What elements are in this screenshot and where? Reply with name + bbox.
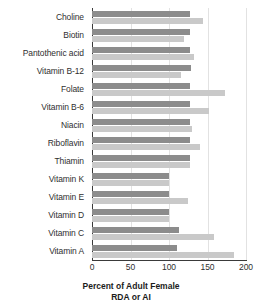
bar: [92, 173, 169, 179]
bar-group: [92, 242, 246, 260]
x-axis-title-line-2: RDA or AI: [0, 292, 262, 303]
bar-group: [92, 224, 246, 242]
bar-rows: [92, 8, 246, 260]
bar-group: [92, 26, 246, 44]
y-axis-category-label: Thiamin: [0, 152, 88, 170]
bar-chart: CholineBiotinPantothenic acidVitamin B-1…: [0, 0, 262, 308]
x-axis-tick-label: 50: [126, 263, 135, 272]
bar: [92, 29, 190, 35]
bar: [92, 245, 177, 251]
bar: [92, 155, 190, 161]
x-axis-tick-labels: 050100150200: [92, 263, 246, 277]
x-axis-line: [92, 260, 247, 261]
bar: [92, 119, 190, 125]
y-axis-category-label: Riboflavin: [0, 134, 88, 152]
bar: [92, 216, 169, 222]
bar-group: [92, 116, 246, 134]
gridline: [246, 8, 247, 260]
y-axis-category-label: Vitamin D: [0, 206, 88, 224]
y-axis-category-label: Folate: [0, 80, 88, 98]
bar: [92, 65, 191, 71]
bar: [92, 11, 190, 17]
y-axis-category-label: Choline: [0, 8, 88, 26]
bar-group: [92, 152, 246, 170]
bar: [92, 144, 200, 150]
x-axis-tick-label: 200: [239, 263, 253, 272]
bar: [92, 198, 188, 204]
bar: [92, 180, 169, 186]
bar: [92, 191, 169, 197]
bar: [92, 72, 181, 78]
bar-group: [92, 8, 246, 26]
y-axis-category-label: Vitamin B-6: [0, 98, 88, 116]
bar-group: [92, 44, 246, 62]
x-axis-tick-label: 100: [162, 263, 176, 272]
bar: [92, 252, 234, 258]
y-axis-category-label: Vitamin B-12: [0, 62, 88, 80]
y-axis-category-labels: CholineBiotinPantothenic acidVitamin B-1…: [0, 8, 88, 260]
bar: [92, 36, 184, 42]
bar-group: [92, 188, 246, 206]
y-axis-category-label: Pantothenic acid: [0, 44, 88, 62]
bar-group: [92, 98, 246, 116]
bar-group: [92, 62, 246, 80]
bar-group: [92, 170, 246, 188]
bar: [92, 137, 190, 143]
bar: [92, 54, 194, 60]
bar-group: [92, 80, 246, 98]
x-axis-title: Percent of Adult Female RDA or AI: [0, 281, 262, 302]
x-axis-tick-label: 150: [200, 263, 214, 272]
bar: [92, 101, 190, 107]
y-axis-category-label: Vitamin A: [0, 242, 88, 260]
bar-group: [92, 206, 246, 224]
bar: [92, 162, 190, 168]
bar: [92, 18, 203, 24]
bar: [92, 227, 179, 233]
bar: [92, 234, 214, 240]
plot-area: [92, 8, 246, 260]
bar-group: [92, 134, 246, 152]
y-axis-category-label: Vitamin K: [0, 170, 88, 188]
bar: [92, 83, 190, 89]
bar: [92, 108, 209, 114]
bar: [92, 209, 169, 215]
y-axis-category-label: Biotin: [0, 26, 88, 44]
bar: [92, 47, 190, 53]
x-axis-tick-label: 0: [90, 263, 95, 272]
y-axis-category-label: Vitamin C: [0, 224, 88, 242]
y-axis-category-label: Niacin: [0, 116, 88, 134]
bar: [92, 90, 225, 96]
y-axis-category-label: Vitamin E: [0, 188, 88, 206]
bar: [92, 126, 192, 132]
x-axis-title-line-1: Percent of Adult Female: [0, 281, 262, 292]
